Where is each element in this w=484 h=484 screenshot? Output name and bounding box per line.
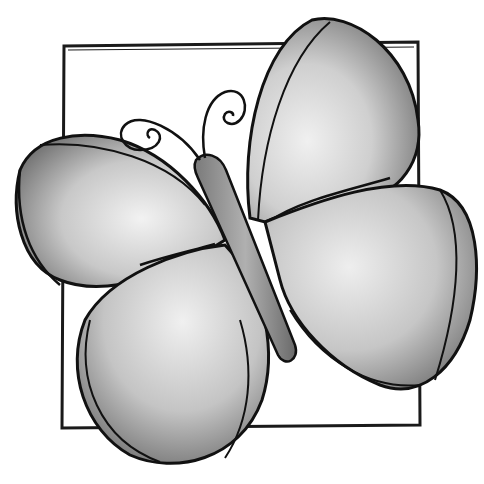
antennae xyxy=(121,91,245,160)
lower-right-wing xyxy=(265,185,476,388)
butterfly-illustration: Butterfly illustration inside a square f… xyxy=(0,0,484,484)
butterfly-drawing xyxy=(0,0,484,484)
